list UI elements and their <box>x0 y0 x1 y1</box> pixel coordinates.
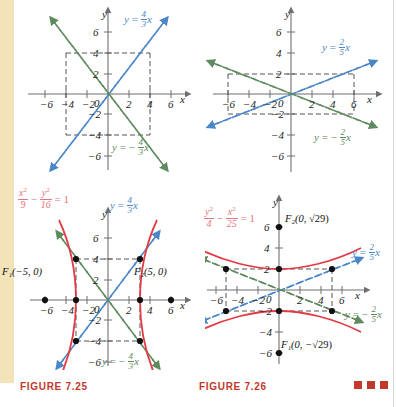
corner-tl <box>73 256 79 262</box>
xtick-4: 4 <box>147 304 153 316</box>
page-right-rule <box>393 0 394 407</box>
focus-label-2-figure-725: F₂(5, 0) <box>134 266 167 277</box>
xtick--6: −6 <box>40 304 53 316</box>
corner-br <box>137 338 143 344</box>
ytick--6: −6 <box>271 150 284 162</box>
ytick--4: −4 <box>259 326 272 338</box>
focus-point-2 <box>168 297 174 303</box>
ytick-2: 2 <box>276 68 282 80</box>
axis-label-x: x <box>354 289 360 301</box>
ytick-2: 2 <box>93 68 99 80</box>
xtick-2: 2 <box>126 98 132 110</box>
axis-label-y: y <box>272 196 278 208</box>
origin-label: 0 <box>266 293 272 305</box>
ytick--2: −2 <box>88 108 101 120</box>
axis-label-x: x <box>179 299 185 311</box>
page-edge-strip <box>0 0 14 383</box>
ytick-4: 4 <box>264 242 270 254</box>
xtick-2: 2 <box>309 98 315 110</box>
asymptote-label-negative-top-right: y = − 2 5 x <box>314 128 351 148</box>
xtick--6: −6 <box>40 98 53 110</box>
focus-label-1-figure-725: F₁(−5, 0) <box>2 266 42 277</box>
equation-label-figure-726: y2 4 − x2 25 = 1 <box>204 206 255 229</box>
figure-caption-725: FIGURE 7.25 <box>20 381 88 392</box>
axis-label-x: x <box>179 93 185 105</box>
section-end-marker <box>354 381 388 389</box>
axis-label-y: y <box>284 8 290 20</box>
hyperbola-upper-branch <box>205 248 361 269</box>
xtick-4: 4 <box>318 294 324 306</box>
corner-tl <box>223 266 229 272</box>
xtick-6: 6 <box>168 304 174 316</box>
axis-label-x: x <box>366 93 372 105</box>
xtick--4: −4 <box>61 304 74 316</box>
xtick-6: 6 <box>351 98 357 110</box>
asymptote-label-negative-top-left: y = − 4 3 x <box>112 138 149 158</box>
corner-bl <box>223 308 229 314</box>
xtick-4: 4 <box>147 98 153 110</box>
figure-page: −6 −4 −2 2 4 6 0 6 4 2 −2 −4 −6 x y y = … <box>0 0 396 407</box>
ytick--2: −2 <box>88 314 101 326</box>
xtick-4: 4 <box>330 98 336 110</box>
vertex-right <box>137 297 143 303</box>
xtick-2: 2 <box>297 294 303 306</box>
hyperbola-lower-branch <box>205 311 361 332</box>
asymptote-label-positive-top-left: y = 4 3 x <box>124 10 152 30</box>
xtick--4: −4 <box>231 294 244 306</box>
ytick--2: −2 <box>259 305 272 317</box>
focus-point-2 <box>276 224 282 230</box>
xtick--4: −4 <box>61 98 74 110</box>
ytick-6: 6 <box>93 232 99 244</box>
focus-point-1 <box>276 350 282 356</box>
axis-label-y: y <box>101 8 107 20</box>
ytick-2: 2 <box>93 274 99 286</box>
corner-tr <box>329 266 335 272</box>
xtick-2: 2 <box>126 304 132 316</box>
ytick-4: 4 <box>93 47 99 59</box>
axes-bottom-left <box>30 212 186 366</box>
vertex-left <box>73 297 79 303</box>
ytick-6: 6 <box>264 221 270 233</box>
ytick-4: 4 <box>93 253 99 265</box>
ytick-2: 2 <box>264 263 270 275</box>
end-square-2 <box>367 381 375 389</box>
asymptote-label-negative-figure-725: y = − 4 3 x <box>102 352 139 372</box>
asymptote-label-positive-top-right: y = 2 5 x <box>322 38 350 58</box>
focus-label-2-figure-726: F₂(0, √29) <box>285 213 329 224</box>
ytick--4: −4 <box>271 129 284 141</box>
asymptote-label-negative-figure-726: y = − 2 5 x <box>345 305 382 325</box>
equation-label-figure-725: x2 9 − y2 16 = 1 <box>18 187 69 210</box>
ytick-4: 4 <box>276 47 282 59</box>
corner-bl <box>73 338 79 344</box>
asymptote-label-positive-figure-726: y = 2 5 x <box>352 243 380 263</box>
hyperbola-left-branch <box>59 220 76 370</box>
ytick-6: 6 <box>276 26 282 38</box>
axis-label-y: y <box>101 208 107 220</box>
corner-br <box>329 308 335 314</box>
ytick--6: −6 <box>88 150 101 162</box>
vertex-bottom <box>276 308 282 314</box>
ytick--2: −2 <box>271 108 284 120</box>
figure-caption-726: FIGURE 7.26 <box>199 381 267 392</box>
corner-tr <box>137 256 143 262</box>
xtick--6: −6 <box>222 98 235 110</box>
end-square-1 <box>354 381 362 389</box>
end-square-3 <box>380 381 388 389</box>
xtick--6: −6 <box>210 294 223 306</box>
ytick--6: −6 <box>88 356 101 368</box>
xtick-6: 6 <box>168 98 174 110</box>
panel-top-right: −6 −4 −2 2 4 6 0 6 4 2 −2 −4 −6 x y <box>205 4 390 180</box>
hyperbola-right-branch <box>140 220 157 370</box>
ytick-6: 6 <box>93 26 99 38</box>
focus-point-1 <box>42 297 48 303</box>
panel-top-left: −6 −4 −2 2 4 6 0 6 4 2 −2 −4 −6 x y <box>14 4 196 180</box>
ytick--4: −4 <box>88 129 101 141</box>
xtick--4: −4 <box>243 98 256 110</box>
ytick--6: −6 <box>259 347 272 359</box>
vertex-top <box>276 266 282 272</box>
focus-label-1-figure-726: F₁(0, −√29) <box>281 339 332 350</box>
ytick--4: −4 <box>88 335 101 347</box>
asymptote-label-positive-figure-725: y = 4 3 x <box>110 196 138 216</box>
panel-bottom-left: −6 −4 −2 2 4 6 0 6 4 2 −2 −4 −6 x y <box>14 186 196 370</box>
